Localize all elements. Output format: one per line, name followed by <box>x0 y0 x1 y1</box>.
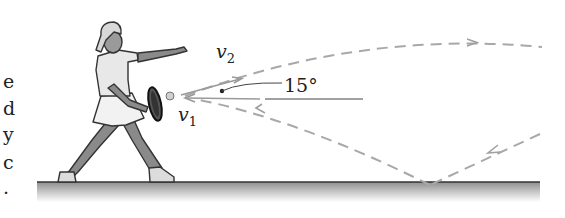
ground <box>37 182 540 202</box>
diagram-canvas <box>0 0 565 218</box>
angle-leader <box>220 83 282 93</box>
arrow-outgoing-icon <box>467 39 477 46</box>
tennis-racket <box>146 86 165 122</box>
label-angle: 15° <box>284 74 318 96</box>
tennis-ball <box>166 92 174 100</box>
outgoing-trajectory <box>181 39 542 96</box>
tennis-player <box>58 22 187 182</box>
label-v1-sub: 1 <box>189 114 197 129</box>
arrow-incoming-icon <box>488 145 500 153</box>
label-v1: v1 <box>178 103 197 125</box>
label-v2: v2 <box>216 40 235 62</box>
arrow-incoming2-icon <box>256 104 265 113</box>
label-v1-main: v <box>178 103 189 125</box>
incoming-trajectory <box>185 94 540 185</box>
label-v2-main: v <box>216 40 227 62</box>
label-v2-sub: 2 <box>227 51 235 66</box>
